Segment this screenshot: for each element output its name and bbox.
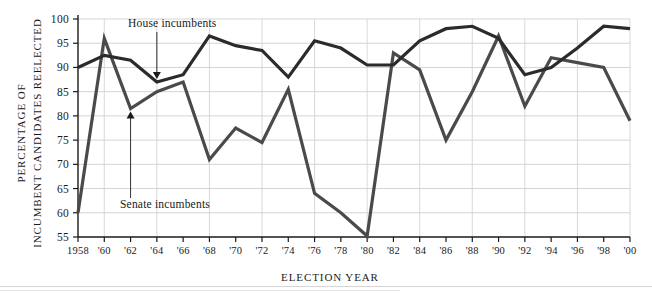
x-tick-label: '80 [361, 245, 374, 256]
x-tick-label: '76 [308, 245, 321, 256]
y-tick-label: 55 [57, 231, 69, 243]
y-tick-label: 80 [57, 110, 69, 122]
y-tick-label: 70 [57, 158, 69, 170]
x-tick-label: '98 [597, 245, 610, 256]
y-axis-title-line1: PERCENTAGE OF [15, 83, 27, 182]
x-tick-label: '70 [229, 245, 242, 256]
x-tick-label: '64 [150, 245, 164, 256]
x-tick-label: '92 [518, 245, 531, 256]
line-chart: 556065707580859095100 1958'60'62'64'66'6… [0, 0, 652, 293]
x-tick-label: '00 [624, 245, 637, 256]
senate-incumbents-label: Senate incumbents [120, 198, 210, 210]
x-tick-label: '94 [545, 245, 559, 256]
house-incumbents-label: House incumbents [128, 17, 217, 29]
y-tick-label: 65 [57, 183, 69, 195]
y-tick-label: 85 [57, 86, 69, 98]
footer-divider-secondary [0, 290, 400, 291]
x-tick-label: '96 [571, 245, 584, 256]
footer-divider [0, 286, 652, 287]
x-axis-title: ELECTION YEAR [281, 271, 379, 283]
x-tick-label: '72 [256, 245, 269, 256]
x-tick-label: '68 [203, 245, 216, 256]
y-axis-title-line2: INCUMBENT CANDIDATES REELECTED [31, 18, 43, 248]
x-tick-label: '62 [124, 245, 137, 256]
x-tick-label: 1958 [67, 245, 89, 256]
chart-figure: 556065707580859095100 1958'60'62'64'66'6… [0, 0, 652, 293]
y-tick-label: 75 [57, 134, 69, 146]
x-tick-label: '88 [466, 245, 479, 256]
y-tick-label: 95 [57, 37, 69, 49]
x-tick-label: '60 [98, 245, 111, 256]
x-tick-label: '78 [334, 245, 347, 256]
x-tick-label: '90 [492, 245, 505, 256]
y-tick-label: 60 [57, 207, 69, 219]
x-tick-label: '66 [177, 245, 190, 256]
y-tick-label: 90 [57, 61, 69, 73]
x-tick-label: '82 [387, 245, 400, 256]
x-tick-label: '74 [282, 245, 296, 256]
x-tick-label: '84 [413, 245, 427, 256]
x-tick-label: '86 [440, 245, 453, 256]
y-tick-label: 100 [51, 13, 69, 25]
